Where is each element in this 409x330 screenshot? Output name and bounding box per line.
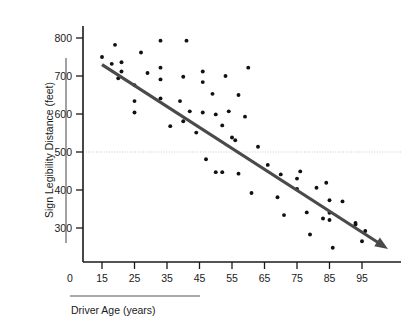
scatter-point — [315, 186, 319, 190]
scatter-point — [246, 66, 250, 70]
scatter-point — [227, 109, 231, 113]
scatter-point — [305, 210, 309, 214]
scatter-point — [233, 138, 237, 142]
x-axis-tick-labels: 152535455565758595 — [96, 272, 368, 284]
x-tick-label: 45 — [194, 272, 206, 284]
scatter-point — [298, 169, 302, 173]
scatter-point — [159, 39, 163, 43]
scatter-point — [120, 69, 124, 73]
scatter-point — [230, 136, 234, 140]
scatter-point — [168, 124, 172, 128]
scatter-point — [181, 119, 185, 123]
scatter-point — [194, 131, 198, 135]
y-tick-label: 700 — [54, 70, 72, 82]
y-axis-title: Sign Legibility Distance (feet) — [43, 82, 55, 218]
x-axis — [83, 262, 401, 269]
scatter-point — [211, 92, 215, 96]
scatter-point — [237, 172, 241, 176]
scatter-point — [237, 93, 241, 97]
scatter-point — [266, 163, 270, 167]
scatter-point — [328, 218, 332, 222]
scatter-point — [220, 123, 224, 127]
scatter-point — [201, 80, 205, 84]
x-tick-label: 25 — [129, 272, 141, 284]
x-tick-label: 85 — [324, 272, 336, 284]
scatter-point — [282, 213, 286, 217]
y-tick-label: 300 — [54, 222, 72, 234]
scatter-point — [276, 195, 280, 199]
scatter-point — [113, 43, 117, 47]
scatter-point — [360, 239, 364, 243]
trend-line-group — [102, 65, 388, 249]
scatter-point — [328, 198, 332, 202]
x-tick-label: 15 — [96, 272, 108, 284]
scatter-point — [133, 99, 137, 103]
scatter-point — [308, 233, 312, 237]
y-tick-label: 500 — [54, 146, 72, 158]
y-tick-label: 600 — [54, 108, 72, 120]
scatter-point — [201, 69, 205, 73]
scatter-point — [120, 60, 124, 64]
scatter-point — [341, 199, 345, 203]
scatter-point — [159, 77, 163, 81]
scatter-point — [321, 217, 325, 221]
scatter-point — [181, 75, 185, 79]
x-tick-label: 55 — [226, 272, 238, 284]
origin-zero-label: 0 — [67, 272, 73, 284]
scatter-point — [201, 111, 205, 115]
scatter-point — [133, 111, 137, 115]
chart-canvas: 300400500600700800 152535455565758595 0 … — [0, 0, 409, 330]
scatter-point — [279, 172, 283, 176]
scatter-point — [324, 181, 328, 185]
y-tick-label: 400 — [54, 184, 72, 196]
x-tick-label: 35 — [161, 272, 173, 284]
scatter-point — [185, 39, 189, 43]
scatter-point — [188, 109, 192, 113]
x-tick-label: 65 — [259, 272, 271, 284]
scatter-point — [214, 112, 218, 116]
scatter-point — [139, 50, 143, 54]
scatter-point — [178, 99, 182, 103]
scatter-point — [204, 157, 208, 161]
y-axis-tick-labels: 300400500600700800 — [54, 32, 72, 234]
y-axis — [76, 26, 83, 262]
scatter-point — [214, 170, 218, 174]
y-tick-label: 800 — [54, 32, 72, 44]
x-axis-title: Driver Age (years) — [71, 304, 156, 316]
sign-legibility-scatter-figure: 300400500600700800 152535455565758595 0 … — [0, 0, 409, 330]
scatter-point — [331, 246, 335, 250]
scatter-point — [159, 66, 163, 70]
x-tick-label: 95 — [356, 272, 368, 284]
scatter-point — [224, 74, 228, 78]
scatter-point — [110, 62, 114, 66]
scatter-point — [295, 177, 299, 181]
x-axis-title-group: Driver Age (years) — [70, 296, 200, 316]
scatter-point — [243, 115, 247, 119]
scatter-point — [100, 55, 104, 59]
scatter-point — [220, 170, 224, 174]
scatter-point — [256, 145, 260, 149]
scatter-point — [250, 191, 254, 195]
scatter-point — [146, 71, 150, 75]
scatter-point-group — [100, 39, 367, 250]
x-tick-label: 75 — [291, 272, 303, 284]
